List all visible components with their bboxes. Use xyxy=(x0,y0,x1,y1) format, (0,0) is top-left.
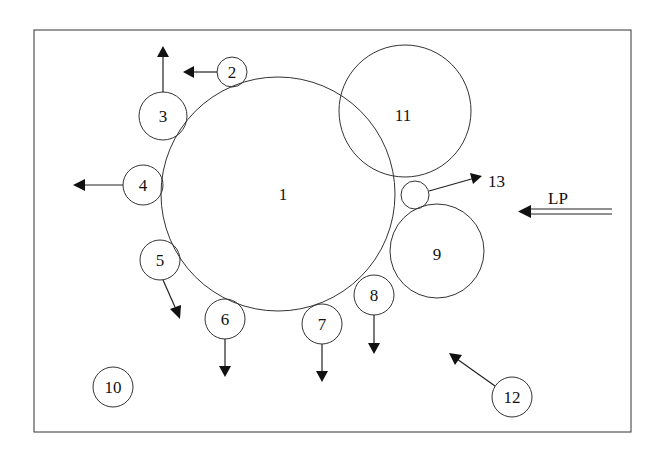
roller-5: 5 xyxy=(140,240,180,280)
roller-12: 12 xyxy=(492,377,532,417)
label-lp: LP xyxy=(548,189,568,208)
arrow-4 xyxy=(73,179,123,191)
roller-4: 4 xyxy=(123,165,163,205)
roller-2: 2 xyxy=(217,57,247,87)
roller-9-label: 9 xyxy=(433,245,442,264)
arrow-7 xyxy=(316,344,328,382)
roller-5-label: 5 xyxy=(156,251,165,270)
roller-1: 1 xyxy=(161,77,395,311)
roller-8: 8 xyxy=(354,275,394,315)
roller-10: 10 xyxy=(93,367,133,407)
arrow-12 xyxy=(449,353,495,386)
roller-3-label: 3 xyxy=(159,107,168,126)
roller-3: 3 xyxy=(139,92,187,140)
roller-6: 6 xyxy=(205,299,245,339)
roller-4-label: 4 xyxy=(139,176,148,195)
roller-6-label: 6 xyxy=(221,310,230,329)
roller-11: 11 xyxy=(339,45,471,177)
roller-diagram: 1 11 13 9 LP 2 3 xyxy=(0,0,657,462)
arrow-3 xyxy=(157,46,169,92)
arrow-5 xyxy=(163,280,181,319)
roller-11-label: 11 xyxy=(395,106,411,125)
roller-7-label: 7 xyxy=(318,315,327,334)
roller-10-label: 10 xyxy=(105,378,122,397)
arrow-13 xyxy=(429,173,482,191)
roller-12-label: 12 xyxy=(504,388,521,407)
roller-7: 7 xyxy=(302,304,342,344)
arrow-8 xyxy=(368,315,380,354)
arrow-6 xyxy=(219,339,231,377)
roller-8-label: 8 xyxy=(370,286,379,305)
roller-13-small xyxy=(401,181,429,209)
arrow-2 xyxy=(183,66,217,78)
label-13: 13 xyxy=(488,172,505,191)
roller-9: 9 xyxy=(390,204,484,298)
roller-1-label: 1 xyxy=(279,185,288,204)
roller-2-label: 2 xyxy=(228,63,237,82)
